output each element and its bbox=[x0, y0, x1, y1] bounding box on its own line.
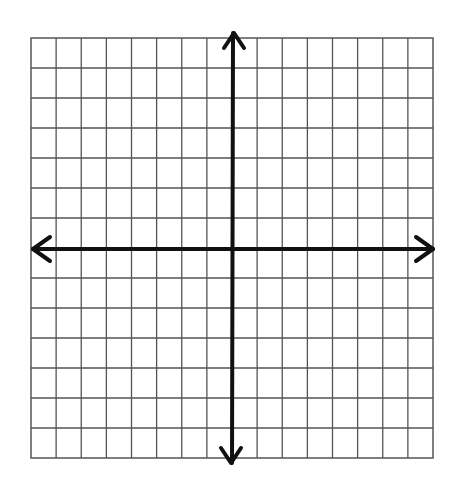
coordinate-plane bbox=[0, 0, 457, 484]
